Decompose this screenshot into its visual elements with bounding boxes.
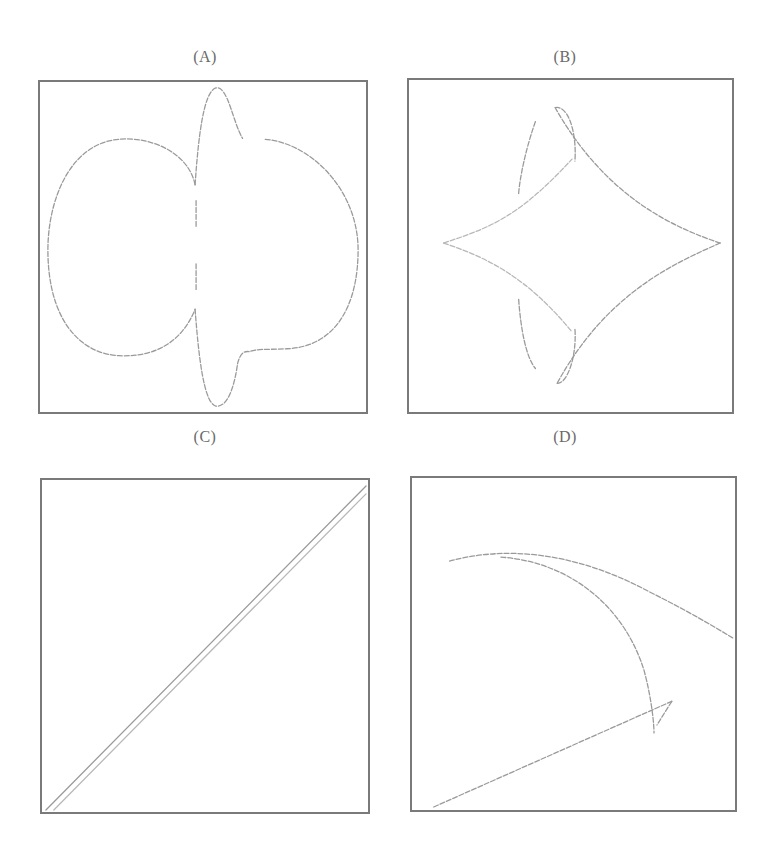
panel-b-label: (B) xyxy=(535,48,595,66)
panel-b-plot xyxy=(409,80,732,412)
panel-d-label: (D) xyxy=(535,428,595,446)
panel-c-label: (C) xyxy=(175,428,235,446)
panel-d-frame xyxy=(410,476,737,812)
panel-c-plot xyxy=(42,480,368,812)
panel-a-plot xyxy=(40,82,366,412)
panel-b-frame xyxy=(407,78,734,414)
panel-a-label: (A) xyxy=(175,48,235,66)
panel-c-frame xyxy=(40,478,370,814)
panel-d-plot xyxy=(412,478,735,810)
panel-a-frame xyxy=(38,80,368,414)
